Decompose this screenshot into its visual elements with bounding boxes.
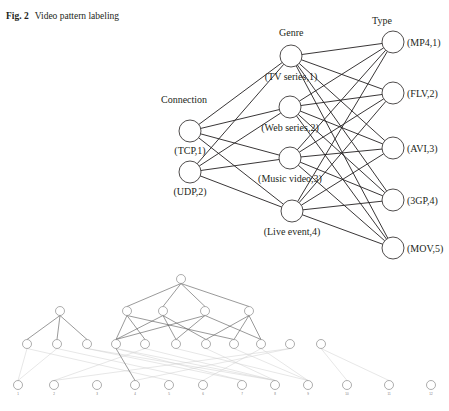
- tree-leaf-node-label: 4: [134, 392, 136, 396]
- network-edge: [302, 43, 382, 54]
- tree-leaf-node: [238, 381, 247, 390]
- tree-leaf-node: [427, 381, 436, 390]
- tree-level2-node: [23, 340, 32, 349]
- tree-edge: [206, 349, 275, 381]
- tree-leaf-node-label: 8: [274, 392, 276, 396]
- tree-edge: [116, 316, 127, 340]
- tree-edge: [116, 316, 163, 340]
- tree-edge: [234, 349, 308, 381]
- network-edge: [201, 134, 280, 155]
- tree-level1-node: [56, 307, 65, 316]
- tree-leaf-node-label: 12: [429, 392, 433, 396]
- tree-leaf-node: [50, 381, 59, 390]
- type-node: [382, 237, 404, 259]
- type-node-label: (AVI,3): [407, 143, 438, 155]
- tree-edge: [234, 316, 249, 340]
- tree-edge: [54, 349, 145, 381]
- tree-edge: [27, 349, 169, 381]
- tree-leaf-node-label: 2: [53, 392, 55, 396]
- tree-level1-node: [201, 307, 210, 316]
- tree-level2-node: [83, 340, 92, 349]
- tree-edge: [181, 284, 205, 307]
- tree-level2-node: [202, 340, 211, 349]
- connection-node-label: (UDP,2): [173, 186, 206, 198]
- type-node: [382, 189, 404, 211]
- tree-leaf-node-label: 7: [241, 392, 243, 396]
- tree-level1-node: [159, 307, 168, 316]
- tree-edge: [181, 284, 249, 307]
- genre-node: [279, 147, 301, 169]
- tree-level2-node: [317, 340, 326, 349]
- network-edge: [299, 101, 386, 202]
- tree-edge: [249, 316, 261, 340]
- column-headers: Connection Genre Type: [161, 15, 392, 105]
- tree-edge: [18, 349, 27, 381]
- tree-leaf-node: [165, 381, 174, 390]
- tree-leaf-node-label: 10: [345, 392, 349, 396]
- type-node: [382, 137, 404, 159]
- tree-leaf-node: [343, 381, 352, 390]
- connection-node: [179, 161, 201, 183]
- connection-node: [179, 120, 201, 142]
- genre-node: [281, 200, 303, 222]
- tree-leaf-node-label: 6: [202, 392, 204, 396]
- connection-column-header: Connection: [161, 94, 207, 105]
- tree-leaf-node-label: 1: [17, 392, 19, 396]
- tree-edge: [116, 349, 135, 381]
- tree-leaf-node: [199, 381, 208, 390]
- tree-edge: [18, 349, 57, 381]
- tree-edge: [116, 349, 242, 381]
- tree-nodes: 123456789101112: [14, 275, 436, 397]
- tree-root-node: [177, 275, 186, 284]
- tree-leaf-node: [93, 381, 102, 390]
- tree-leaf-node: [131, 381, 140, 390]
- tree-edge: [163, 284, 181, 307]
- genre-node-label: (Web series,2): [261, 122, 319, 134]
- tree-leaf-node: [271, 381, 280, 390]
- genre-node: [280, 45, 302, 67]
- genre-node-label: (Music video,3): [258, 173, 322, 185]
- tree-leaf-node-label: 3: [96, 392, 98, 396]
- tree-leaf-node-label: 11: [387, 392, 390, 396]
- network-edge: [201, 160, 279, 171]
- tree-level2-node: [141, 340, 150, 349]
- tree-leaf-node: [14, 381, 23, 390]
- tree-edge: [57, 316, 60, 340]
- tree-leaf-node-label: 9: [307, 392, 309, 396]
- tree-edge: [205, 316, 261, 340]
- tree-edges: [27, 284, 261, 381]
- tree-level2-node: [112, 340, 121, 349]
- network-edge: [297, 50, 385, 150]
- tree-edge: [321, 349, 347, 381]
- connection-node-label: (TCP,1): [174, 145, 205, 157]
- tree-edge: [135, 349, 290, 381]
- tree-level2-node: [53, 340, 62, 349]
- tree-leaf-node-label: 5: [168, 392, 170, 396]
- type-node: [382, 82, 404, 104]
- tree-leaf-node: [304, 381, 313, 390]
- tree-level2-node: [286, 340, 295, 349]
- genre-node-label: (Live event,4): [264, 226, 321, 238]
- tree-edge: [127, 284, 181, 307]
- tree-edge: [206, 316, 249, 340]
- tree-edge: [60, 316, 87, 340]
- tree-level1-node: [123, 307, 132, 316]
- type-node: [382, 31, 404, 53]
- tree-level2-node: [172, 340, 181, 349]
- type-column-header: Type: [372, 15, 392, 26]
- video-pattern-diagram: (TCP,1)(UDP,2)(TV series,1)(Web series,2…: [0, 0, 449, 411]
- tree-leaf-node: [385, 381, 394, 390]
- genre-node: [279, 96, 301, 118]
- tree-edge: [27, 316, 60, 340]
- tree-level1-node: [245, 307, 254, 316]
- network-edge: [199, 113, 281, 166]
- type-node-label: (3GP,4): [407, 195, 438, 207]
- genre-column-header: Genre: [279, 27, 304, 38]
- tree-edge: [261, 349, 308, 381]
- type-node-label: (MOV,5): [407, 243, 443, 255]
- tree-level2-node: [230, 340, 239, 349]
- tree-level2-node: [257, 340, 266, 349]
- genre-node-label: (TV series,1): [265, 71, 318, 83]
- tree-edge: [321, 349, 389, 381]
- tree-cross-edges: [18, 349, 389, 381]
